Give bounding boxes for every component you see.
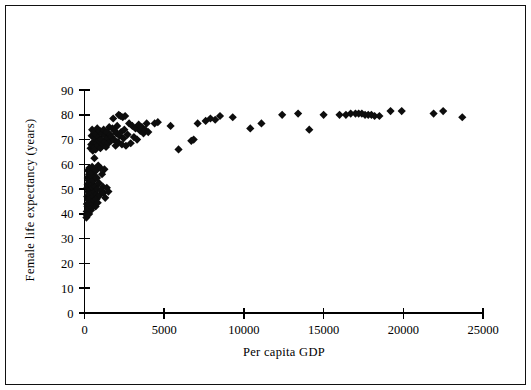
figure-container: 0500010000150002000025000010203040506070… <box>0 0 531 390</box>
data-point-marker <box>375 112 383 120</box>
data-point-marker <box>305 126 313 134</box>
data-point-marker <box>246 124 254 132</box>
data-point-marker <box>439 107 447 115</box>
y-axis-tick-label: 50 <box>61 183 74 197</box>
x-axis-title: Per capita GDP <box>243 345 325 359</box>
data-point-marker <box>166 122 174 130</box>
data-point-marker <box>320 111 328 119</box>
y-axis-tick-label: 90 <box>61 84 74 98</box>
y-axis-tick-label: 30 <box>61 232 74 246</box>
x-axis-tick-label: 0 <box>81 323 87 337</box>
x-axis-tick-label: 20000 <box>388 323 419 337</box>
x-axis-tick-label: 15000 <box>308 323 339 337</box>
data-markers-group <box>82 107 466 222</box>
data-point-marker <box>174 145 182 153</box>
data-point-marker <box>229 113 237 121</box>
data-point-marker <box>294 109 302 117</box>
data-point-marker <box>194 119 202 127</box>
y-axis-tick-label: 10 <box>61 282 74 296</box>
data-point-marker <box>257 119 265 127</box>
scatter-plot-svg: 0500010000150002000025000010203040506070… <box>0 0 531 390</box>
x-axis-tick-label: 10000 <box>228 323 259 337</box>
y-axis-tick-label: 70 <box>61 133 74 147</box>
data-point-marker <box>458 113 466 121</box>
tick-labels-group: 0500010000150002000025000010203040506070… <box>61 84 499 338</box>
data-point-marker <box>429 109 437 117</box>
y-axis-tick-label: 20 <box>61 257 74 271</box>
y-axis-title: Female life expectancy (years) <box>23 119 37 282</box>
y-axis-tick-label: 40 <box>61 207 74 221</box>
data-point-marker <box>90 154 98 162</box>
data-point-marker <box>398 107 406 115</box>
y-axis-tick-label: 0 <box>67 307 73 321</box>
x-axis-tick-label: 25000 <box>467 323 498 337</box>
data-point-marker <box>278 111 286 119</box>
scatter-plot: 0500010000150002000025000010203040506070… <box>0 0 531 390</box>
y-axis-tick-label: 80 <box>61 108 74 122</box>
x-axis-tick-label: 5000 <box>152 323 177 337</box>
y-axis-tick-label: 60 <box>61 158 74 172</box>
data-point-marker <box>386 107 394 115</box>
